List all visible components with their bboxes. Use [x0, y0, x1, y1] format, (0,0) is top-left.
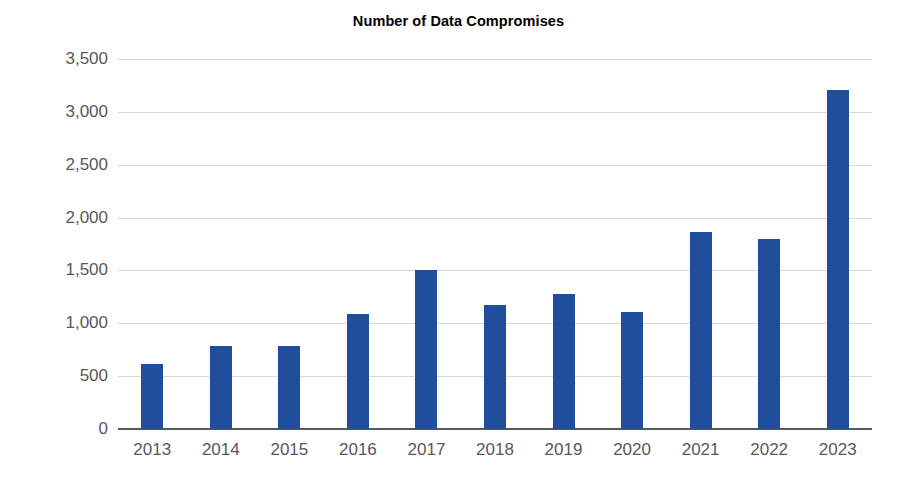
bar [484, 305, 506, 429]
gridline [118, 165, 872, 166]
y-axis-tick-label: 2,500 [8, 155, 108, 175]
y-axis: 05001,0001,5002,0002,5003,0003,500 [0, 0, 108, 496]
bar [553, 294, 575, 429]
y-axis-tick-label: 3,000 [8, 102, 108, 122]
bar [210, 346, 232, 429]
chart-container: Number of Data Compromises 05001,0001,50… [0, 0, 917, 496]
y-axis-tick-label: 3,500 [8, 49, 108, 69]
bar [621, 312, 643, 429]
y-axis-tick-label: 500 [8, 366, 108, 386]
x-axis-tick-label: 2015 [254, 440, 324, 460]
bar [758, 239, 780, 429]
y-axis-tick-label: 0 [8, 419, 108, 439]
bar [278, 346, 300, 429]
x-axis-tick-label: 2018 [460, 440, 530, 460]
x-axis-tick-label: 2022 [734, 440, 804, 460]
y-axis-tick-label: 1,500 [8, 260, 108, 280]
x-axis-tick-label: 2016 [323, 440, 393, 460]
bar [690, 232, 712, 429]
gridline [118, 59, 872, 60]
x-axis-tick-label: 2013 [117, 440, 187, 460]
x-axis-tick-label: 2023 [803, 440, 873, 460]
y-axis-tick-label: 2,000 [8, 208, 108, 228]
x-axis-tick-label: 2017 [391, 440, 461, 460]
y-axis-tick-label: 1,000 [8, 313, 108, 333]
chart-title: Number of Data Compromises [0, 13, 917, 29]
bar [347, 314, 369, 429]
gridline [118, 112, 872, 113]
bar [827, 90, 849, 429]
gridline [118, 218, 872, 219]
x-axis-tick-label: 2021 [666, 440, 736, 460]
x-axis-tick-label: 2020 [597, 440, 667, 460]
bar [141, 364, 163, 429]
bar [415, 270, 437, 429]
x-axis-tick-label: 2014 [186, 440, 256, 460]
x-axis-tick-label: 2019 [529, 440, 599, 460]
